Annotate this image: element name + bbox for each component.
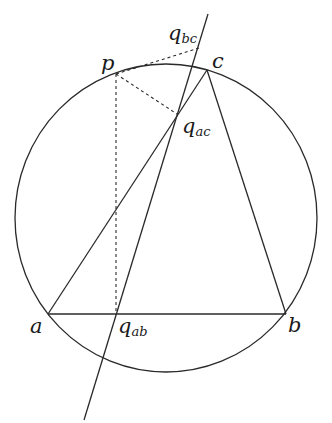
circumcircle	[15, 64, 317, 372]
perpendicular-p-to-bc	[116, 48, 199, 74]
label-c: c	[212, 49, 224, 73]
label-q-ac: qac	[182, 114, 211, 139]
side-bc	[207, 70, 286, 314]
perpendicular-p-to-ac	[116, 74, 177, 114]
label-q-ab: qab	[118, 314, 148, 339]
label-q-bc: qbc	[168, 21, 198, 46]
simson-line-diagram: a b c p qab qac qbc	[0, 0, 332, 423]
label-p: p	[101, 51, 114, 75]
label-b: b	[288, 313, 301, 337]
label-a: a	[30, 314, 43, 338]
